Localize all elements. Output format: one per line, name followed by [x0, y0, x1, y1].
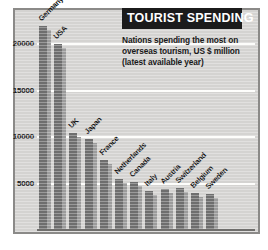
bar-category-label: Germany [37, 0, 65, 23]
bar-category-label: France [97, 135, 120, 158]
bar-front-face [206, 194, 214, 230]
bar: Canada [130, 182, 142, 230]
bar: Germany [39, 26, 51, 230]
bar-side-face [169, 193, 173, 230]
title-block: TOURIST SPENDING Nations spending the mo… [122, 8, 242, 68]
chart-title: TOURIST SPENDING [122, 8, 242, 29]
subtitle-line: overseas tourism, US $ million [122, 46, 242, 57]
bar-front-face [191, 193, 199, 230]
bar-side-face [62, 48, 66, 230]
bar-front-face [39, 26, 47, 230]
bar-side-face [47, 30, 51, 230]
bar-side-face [93, 143, 97, 230]
bar: UK [69, 133, 81, 230]
bar-front-face [130, 182, 138, 230]
bar: Netherlands [115, 179, 127, 230]
bar-category-label: UK [67, 116, 81, 130]
bar: Austria [161, 189, 173, 230]
bar-side-face [77, 137, 81, 230]
bar-side-face [184, 192, 188, 230]
bar-side-face [214, 198, 218, 230]
bar-front-face [161, 189, 169, 230]
bar-front-face [100, 160, 108, 230]
axis-baseline [37, 229, 255, 231]
bar: France [100, 160, 112, 230]
subtitle-line: (latest available year) [122, 57, 242, 68]
bar: Switzerland [176, 188, 188, 230]
bar-front-face [115, 179, 123, 230]
bar-category-label: USA [52, 24, 69, 41]
bar-side-face [138, 186, 142, 230]
bar: Sweden [206, 194, 218, 230]
y-axis-tick-label: 15000 [13, 85, 34, 94]
bar: Japan [85, 139, 97, 230]
bar-front-face [176, 188, 184, 230]
bar-side-face [199, 197, 203, 230]
y-axis-tick-label: 10000 [13, 132, 34, 141]
chart-subtitle: Nations spending the most onoverseas tou… [122, 35, 242, 68]
bar-front-face [69, 133, 77, 230]
subtitle-line: Nations spending the most on [122, 35, 242, 46]
bar: Belgium [191, 193, 203, 230]
bar-category-label: Japan [82, 115, 103, 136]
bar: USA [54, 44, 66, 230]
bar-category-label: Italy [143, 172, 159, 188]
bar: Italy [145, 191, 157, 230]
bar-side-face [108, 164, 112, 230]
bar-front-face [85, 139, 93, 230]
y-axis-tick-label: 20000 [13, 39, 34, 48]
bar-side-face [123, 183, 127, 230]
bar-front-face [145, 191, 153, 230]
bar-front-face [54, 44, 62, 230]
chart-figure: 2000015000100005000 GermanyUSAUKJapanFra… [0, 0, 268, 250]
y-axis-tick-label: 5000 [17, 178, 34, 187]
bar-side-face [153, 195, 157, 230]
